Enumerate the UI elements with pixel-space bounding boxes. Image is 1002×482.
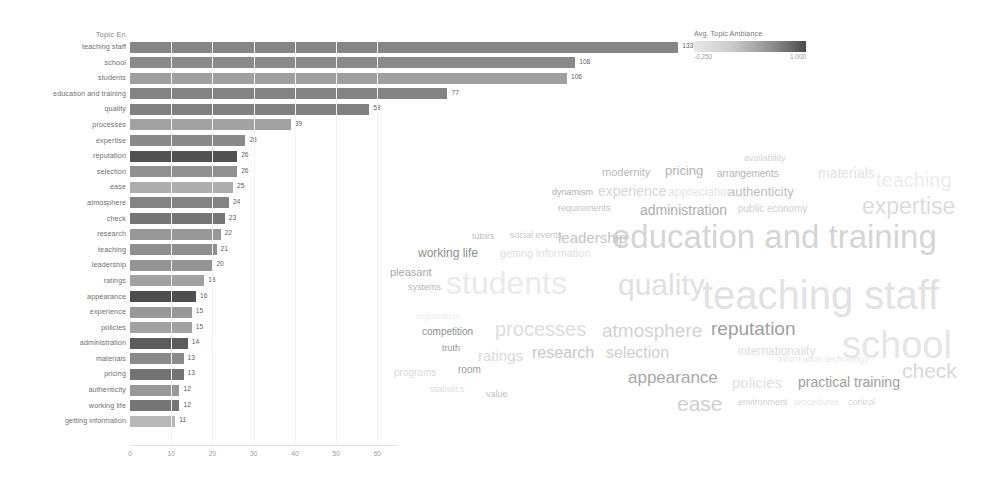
word-cloud-word[interactable]: social events xyxy=(510,231,562,240)
word-cloud-word[interactable]: check xyxy=(902,360,957,381)
word-cloud-word[interactable]: ease xyxy=(677,393,723,414)
bar-row[interactable]: teaching staff133 xyxy=(0,41,420,57)
bar-row[interactable]: ratings18 xyxy=(0,275,420,291)
word-cloud-word[interactable]: getting information xyxy=(500,248,591,259)
bar-fill[interactable] xyxy=(130,322,192,333)
bar-fill[interactable] xyxy=(130,213,225,224)
bar-fill[interactable] xyxy=(130,135,245,146)
bar-fill[interactable] xyxy=(130,104,369,115)
bar-row[interactable]: pricing13 xyxy=(0,368,420,384)
word-cloud-word[interactable]: education and training xyxy=(612,220,937,253)
word-cloud-word[interactable]: statistics xyxy=(430,385,465,394)
word-cloud-word[interactable]: policies xyxy=(732,375,782,390)
word-cloud-word[interactable]: arrangements xyxy=(717,169,779,179)
word-cloud-word[interactable]: dynamism xyxy=(552,188,593,197)
grid-line xyxy=(171,41,172,445)
bar-fill[interactable] xyxy=(130,275,204,286)
bar-row[interactable]: quality58 xyxy=(0,103,420,119)
bar-fill[interactable] xyxy=(130,338,188,349)
bar-fill[interactable] xyxy=(130,369,184,380)
word-cloud-word[interactable]: truth xyxy=(442,344,460,353)
bar-row[interactable]: authenticity12 xyxy=(0,384,420,400)
bar-fill[interactable] xyxy=(130,307,192,318)
bar-fill[interactable] xyxy=(130,119,291,130)
word-cloud-word[interactable]: programs xyxy=(394,368,436,378)
bar-fill[interactable] xyxy=(130,197,229,208)
word-cloud-word[interactable]: administration xyxy=(640,203,727,217)
bar-row[interactable]: expertise28 xyxy=(0,135,420,151)
word-cloud-word[interactable]: working life xyxy=(418,247,478,259)
bar-fill[interactable] xyxy=(130,244,217,255)
bar-row[interactable]: administration14 xyxy=(0,337,420,353)
word-cloud-word[interactable]: control xyxy=(848,398,875,407)
bar-label: school xyxy=(0,58,126,67)
word-cloud-word[interactable]: modernity xyxy=(602,167,650,178)
bar-row[interactable]: reputation26 xyxy=(0,150,420,166)
word-cloud-word[interactable]: environment xyxy=(738,398,788,407)
color-legend-title: Avg. Topic Ambiance xyxy=(694,29,810,38)
word-cloud-word[interactable]: appreciation xyxy=(668,186,733,198)
word-cloud-word[interactable]: ratings xyxy=(478,348,523,363)
word-cloud-word[interactable]: systems xyxy=(408,283,441,292)
word-cloud-word[interactable]: research xyxy=(532,345,594,361)
bar-row[interactable]: teaching21 xyxy=(0,244,420,260)
bar-row[interactable]: atmosphere24 xyxy=(0,197,420,213)
bar-row[interactable]: working life12 xyxy=(0,400,420,416)
bar-row[interactable]: leadership20 xyxy=(0,259,420,275)
bar-track xyxy=(130,73,567,84)
word-cloud-word[interactable]: information technology xyxy=(778,355,869,364)
bar-track xyxy=(130,213,225,224)
word-cloud-word[interactable]: pricing xyxy=(665,164,703,177)
word-cloud-word[interactable]: competition xyxy=(422,327,473,337)
word-cloud-word[interactable]: procedures xyxy=(794,398,839,407)
word-cloud-word[interactable]: practical training xyxy=(798,375,900,389)
bar-label: research xyxy=(0,229,126,238)
bar-fill[interactable] xyxy=(130,353,184,364)
bar-row[interactable]: appearance16 xyxy=(0,291,420,307)
word-cloud-word[interactable]: processes xyxy=(495,319,586,339)
bar-row[interactable]: check23 xyxy=(0,213,420,229)
word-cloud-word[interactable]: requirements xyxy=(558,204,611,213)
word-cloud-word[interactable]: availability xyxy=(744,154,786,163)
bar-row[interactable]: selection26 xyxy=(0,166,420,182)
word-cloud-word[interactable]: pleasant xyxy=(390,267,432,278)
bar-fill[interactable] xyxy=(130,416,175,427)
word-cloud-word[interactable]: quality xyxy=(618,270,705,300)
word-cloud-word[interactable]: appearance xyxy=(628,369,718,386)
word-cloud-word[interactable]: students xyxy=(446,267,567,299)
bar-fill[interactable] xyxy=(130,57,575,68)
bar-fill[interactable] xyxy=(130,182,233,193)
word-cloud-word[interactable]: experience xyxy=(598,184,667,198)
bar-row[interactable]: materials13 xyxy=(0,353,420,369)
bar-fill[interactable] xyxy=(130,88,447,99)
bar-row[interactable]: processes39 xyxy=(0,119,420,135)
word-cloud-word[interactable]: teaching xyxy=(876,170,952,190)
bar-value: 22 xyxy=(225,229,232,236)
bar-row[interactable]: policies15 xyxy=(0,322,420,338)
word-cloud-word[interactable]: public economy xyxy=(738,204,807,214)
word-cloud-word[interactable]: materials xyxy=(818,166,875,180)
word-cloud-word[interactable]: expertise xyxy=(862,195,955,218)
word-cloud-word[interactable]: authenticity xyxy=(728,185,794,198)
bar-row[interactable]: students106 xyxy=(0,72,420,88)
word-cloud-word[interactable]: leadership xyxy=(558,230,627,245)
bar-row[interactable]: getting information11 xyxy=(0,415,420,431)
bar-fill[interactable] xyxy=(130,229,221,240)
word-cloud-word[interactable]: selection xyxy=(606,345,669,361)
bar-row[interactable]: school108 xyxy=(0,57,420,73)
bar-fill[interactable] xyxy=(130,151,237,162)
word-cloud-word[interactable]: reputation xyxy=(711,319,796,338)
bar-row[interactable]: experience15 xyxy=(0,306,420,322)
bar-row[interactable]: research22 xyxy=(0,228,420,244)
bar-fill[interactable] xyxy=(130,291,196,302)
bar-row[interactable]: education and training77 xyxy=(0,88,420,104)
word-cloud-word[interactable]: room xyxy=(458,365,481,375)
word-cloud-word[interactable]: registration xyxy=(416,312,461,321)
bar-fill[interactable] xyxy=(130,166,237,177)
word-cloud-word[interactable]: atmosphere xyxy=(602,321,702,340)
word-cloud-word[interactable]: value xyxy=(486,390,508,399)
word-cloud-word[interactable]: teaching staff xyxy=(702,275,939,315)
word-cloud-word[interactable]: tutors xyxy=(472,232,495,241)
bar-fill[interactable] xyxy=(130,73,567,84)
bar-row[interactable]: ease25 xyxy=(0,181,420,197)
